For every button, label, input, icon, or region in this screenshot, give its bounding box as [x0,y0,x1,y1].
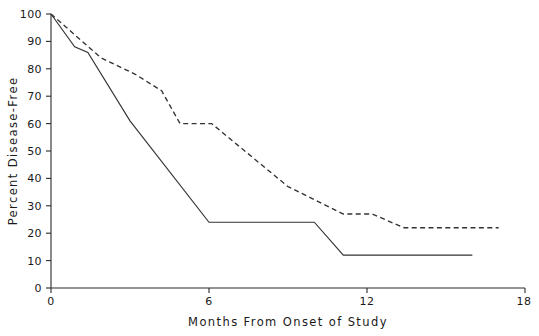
series-dashed-line [51,14,499,228]
y-tick-label-20: 20 [27,227,42,240]
y-tick-label-80: 80 [27,63,42,76]
y-axis-title: Percent Disease-Free [6,77,20,226]
axes-group [51,14,525,288]
y-tick-label-0: 0 [35,282,42,295]
survival-curve-plot: 0 10 20 30 40 50 60 70 80 90 100 0 6 12 … [0,0,539,336]
x-tick-label-18: 18 [517,295,532,308]
x-axis-title: Months From Onset of Study [188,315,388,329]
series-solid-line [51,14,472,255]
y-axis-tick-labels: 0 10 20 30 40 50 60 70 80 90 100 [20,8,42,295]
y-tick-label-100: 100 [20,8,42,21]
chart-container: 0 10 20 30 40 50 60 70 80 90 100 0 6 12 … [0,0,539,336]
y-tick-label-40: 40 [27,172,42,185]
y-axis-ticks [46,14,51,288]
y-tick-label-30: 30 [27,200,42,213]
y-tick-label-70: 70 [27,90,42,103]
x-tick-label-0: 0 [47,295,54,308]
x-tick-label-6: 6 [205,295,212,308]
x-axis-tick-labels: 0 6 12 18 [47,295,531,308]
y-tick-label-60: 60 [27,118,42,131]
x-tick-label-12: 12 [360,295,375,308]
y-tick-label-90: 90 [27,35,42,48]
y-tick-label-10: 10 [27,255,42,268]
x-axis-ticks [51,288,525,293]
y-tick-label-50: 50 [27,145,42,158]
